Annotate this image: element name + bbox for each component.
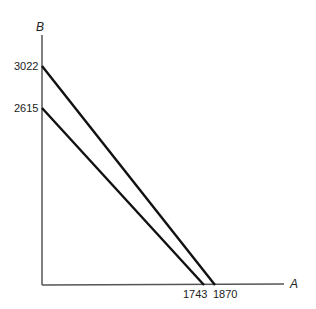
y-tick-upper: 3022 [14, 60, 38, 72]
upper-line [42, 66, 215, 285]
x-tick-lower: 1743 [183, 288, 207, 300]
x-axis-label: A [290, 277, 298, 291]
y-tick-lower: 2615 [14, 102, 38, 114]
lower-line [42, 108, 204, 285]
chart-canvas [0, 0, 316, 309]
y-axis-label: B [36, 20, 44, 34]
x-tick-upper: 1870 [213, 288, 237, 300]
x-axis [42, 284, 284, 285]
